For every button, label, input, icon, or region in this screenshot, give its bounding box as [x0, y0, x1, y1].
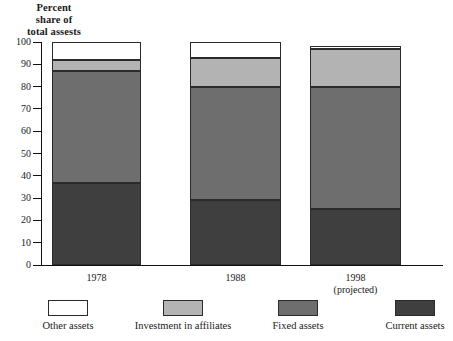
- y-axis-tick-label: 40: [1, 171, 31, 181]
- chart-figure: Percent share of total assests 100908070…: [0, 0, 453, 341]
- bar-segment: [190, 58, 281, 87]
- y-axis-tick: [33, 153, 41, 154]
- bar-segment: [52, 42, 141, 60]
- y-axis-tick: [33, 242, 41, 243]
- y-axis-tick-label: 50: [1, 149, 31, 159]
- legend-swatch: [278, 300, 318, 316]
- category-label-line: 1978: [52, 272, 141, 284]
- y-axis-tick-label: 0: [1, 260, 31, 270]
- bar-segment: [310, 209, 401, 265]
- category-label-line: 1988: [190, 272, 281, 284]
- y-axis-tick-label: 20: [1, 215, 31, 225]
- y-axis-tick-label: 70: [1, 104, 31, 114]
- bar-segment: [190, 42, 281, 58]
- x-axis-line: [41, 265, 443, 266]
- category-label: 1998(projected): [310, 272, 401, 296]
- legend-item[interactable]: Current assets: [340, 300, 453, 332]
- bar-segment: [310, 87, 401, 210]
- y-axis-tick: [33, 198, 41, 199]
- legend-swatch: [48, 300, 88, 316]
- bar-segment: [310, 46, 401, 48]
- bar-segment: [190, 200, 281, 265]
- y-axis-tick-label: 60: [1, 126, 31, 136]
- bar-column: [190, 42, 281, 265]
- bar-segment: [52, 60, 141, 71]
- category-label-sublabel: (projected): [310, 284, 401, 296]
- y-axis-tick: [33, 42, 41, 43]
- chart-title-line-2: share of: [4, 14, 104, 26]
- bar-segment: [310, 49, 401, 87]
- bar-column: [310, 42, 401, 265]
- category-label: 1988: [190, 272, 281, 284]
- y-axis-tick-label: 90: [1, 59, 31, 69]
- y-axis-tick: [33, 175, 41, 176]
- chart-title: Percent share of total assests: [4, 2, 104, 39]
- y-axis-tick-label: 30: [1, 193, 31, 203]
- bar-segment: [52, 71, 141, 183]
- y-axis-tick: [33, 86, 41, 87]
- chart-legend: Other assetsInvestment in affiliatesFixe…: [0, 300, 453, 341]
- legend-swatch: [395, 300, 435, 316]
- category-label: 1978: [52, 272, 141, 284]
- y-axis-tick-label: 80: [1, 82, 31, 92]
- plot-area: [41, 42, 441, 265]
- bar-segment: [190, 87, 281, 201]
- y-axis-tick: [33, 64, 41, 65]
- y-axis-tick: [33, 265, 41, 266]
- legend-label: Current assets: [340, 320, 453, 332]
- y-axis-tick: [33, 108, 41, 109]
- y-axis-tick: [33, 220, 41, 221]
- category-label-line: 1998: [310, 272, 401, 284]
- bar-segment: [52, 183, 141, 266]
- y-axis-tick: [33, 131, 41, 132]
- bar-column: [52, 42, 141, 265]
- chart-title-line-1: Percent: [4, 2, 104, 14]
- y-axis-tick-label: 10: [1, 238, 31, 248]
- y-axis-tick-label: 100: [1, 37, 31, 47]
- legend-swatch: [163, 300, 203, 316]
